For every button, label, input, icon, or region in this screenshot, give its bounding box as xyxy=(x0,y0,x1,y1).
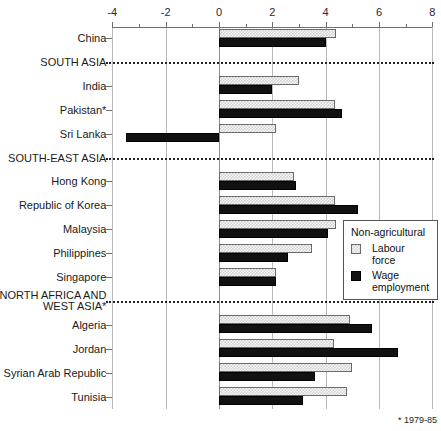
legend-title: Non-agricultural xyxy=(351,226,430,238)
gridline-8 xyxy=(432,27,433,409)
gridline--2 xyxy=(166,27,167,409)
category-label-republic-of-korea: Republic of Korea xyxy=(19,200,106,211)
category-tick xyxy=(106,205,112,206)
category-label-south-east-asia: SOUTH-EAST ASIA xyxy=(8,153,106,164)
bar-china-lf xyxy=(219,29,336,38)
category-tick xyxy=(106,134,112,135)
bar-jordan-lf xyxy=(219,339,334,348)
category-tick xyxy=(106,373,112,374)
bar-sri-lanka-we xyxy=(126,133,219,142)
category-label-sri-lanka: Sri Lanka xyxy=(60,129,106,140)
x-tick-label-2: 2 xyxy=(257,6,287,18)
bar-republic-of-korea-lf xyxy=(219,196,335,205)
bar-hong-kong-we xyxy=(219,181,296,190)
bar-philippines-lf xyxy=(219,244,312,253)
bar-malaysia-we xyxy=(219,229,328,238)
bar-pakistan-lf xyxy=(219,100,335,109)
x-tick-label-0: 0 xyxy=(204,6,234,18)
bar-syrian-arab-republic-we xyxy=(219,372,315,381)
gridline--4 xyxy=(112,27,113,409)
category-tick xyxy=(106,325,112,326)
category-label-malaysia: Malaysia xyxy=(63,224,106,235)
category-label-china: China xyxy=(78,33,107,44)
chart-root: -4-202468 ChinaSOUTH ASIAIndiaPakistan*S… xyxy=(0,0,441,431)
legend-label-wage-employment: Wage employment xyxy=(372,270,429,293)
bar-philippines-we xyxy=(219,253,288,262)
x-tick-label-6: 6 xyxy=(364,6,394,18)
bar-china-we xyxy=(219,38,326,47)
category-tick xyxy=(106,38,112,39)
bar-india-lf xyxy=(219,76,299,85)
footnote: * 1979-85 xyxy=(398,415,437,425)
category-label-algeria: Algeria xyxy=(72,320,106,331)
category-tick xyxy=(106,181,112,182)
category-tick xyxy=(106,86,112,87)
region-separator-south-east-asia xyxy=(106,158,434,160)
bar-india-we xyxy=(219,85,272,94)
bar-tunisia-we xyxy=(219,396,303,405)
category-label-hong-kong: Hong Kong xyxy=(51,176,106,187)
region-separator-south-asia xyxy=(106,62,434,64)
x-axis-tick xyxy=(112,22,113,27)
bar-algeria-we xyxy=(219,324,372,333)
legend: Non-agricultural Labour force Wage emplo… xyxy=(343,220,438,300)
x-axis-tick xyxy=(406,24,407,27)
category-tick xyxy=(106,397,112,398)
x-axis-tick xyxy=(326,22,327,27)
x-tick-label-neg2: -2 xyxy=(151,6,181,18)
region-separator-north-africa-and-west-asia xyxy=(106,301,434,303)
x-axis-tick xyxy=(192,24,193,27)
legend-item-labour-force: Labour force xyxy=(351,243,430,266)
category-label-singapore: Singapore xyxy=(56,272,106,283)
x-tick-label-8: 8 xyxy=(417,6,441,18)
x-axis-tick xyxy=(219,22,220,27)
category-tick xyxy=(106,277,112,278)
legend-label-labour-force: Labour force xyxy=(372,243,430,266)
bar-malaysia-lf xyxy=(219,220,336,229)
x-tick-label-4: 4 xyxy=(311,6,341,18)
bar-tunisia-lf xyxy=(219,387,347,396)
category-tick xyxy=(106,229,112,230)
bar-hong-kong-lf xyxy=(219,172,294,181)
category-label-tunisia: Tunisia xyxy=(71,392,106,403)
x-axis-tick xyxy=(432,22,433,27)
category-tick xyxy=(106,253,112,254)
category-label-jordan: Jordan xyxy=(73,344,107,355)
x-axis-tick xyxy=(246,24,247,27)
legend-item-wage-employment: Wage employment xyxy=(351,270,430,293)
bar-republic-of-korea-we xyxy=(219,205,358,214)
bar-pakistan-we xyxy=(219,109,342,118)
x-axis-tick xyxy=(139,24,140,27)
category-label-philippines: Philippines xyxy=(53,248,106,259)
category-label-pakistan: Pakistan* xyxy=(60,105,106,116)
legend-swatch-labour-force xyxy=(351,244,361,254)
legend-swatch-wage-employment xyxy=(351,271,361,281)
x-axis-tick xyxy=(166,22,167,27)
x-axis-tick xyxy=(352,24,353,27)
bar-sri-lanka-lf xyxy=(219,124,276,133)
x-axis-tick xyxy=(272,22,273,27)
category-label-syrian-arab-republic: Syrian Arab Republic xyxy=(4,368,107,379)
category-label-north-africa-and-west-asia: NORTH AFRICA AND WEST ASIA* xyxy=(0,290,106,312)
x-axis-tick xyxy=(379,22,380,27)
bar-singapore-we xyxy=(219,277,276,286)
bar-singapore-lf xyxy=(219,268,276,277)
category-tick xyxy=(106,110,112,111)
category-tick xyxy=(106,349,112,350)
bar-syrian-arab-republic-lf xyxy=(219,363,352,372)
bar-algeria-lf xyxy=(219,315,350,324)
category-label-south-asia: SOUTH ASIA xyxy=(40,57,106,68)
bar-jordan-we xyxy=(219,348,398,357)
x-tick-label-neg4: -4 xyxy=(97,6,127,18)
category-label-india: India xyxy=(82,81,106,92)
x-axis-tick xyxy=(299,24,300,27)
